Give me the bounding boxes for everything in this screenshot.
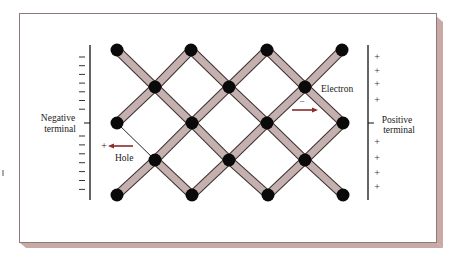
atom <box>261 44 274 57</box>
atom <box>299 154 312 167</box>
positive-terminal-label-line2: terminal <box>383 125 415 135</box>
atom <box>223 154 236 167</box>
atom <box>261 117 274 130</box>
atom <box>149 81 162 94</box>
positive-terminal-label-line1: Positive <box>382 115 413 125</box>
plus-sign: + <box>374 94 380 105</box>
negative-terminal-label-line1: Negative <box>41 113 75 123</box>
plus-sign: + <box>374 167 380 178</box>
hole-label: Hole <box>115 153 133 163</box>
atom <box>336 44 349 57</box>
semiconductor-lattice-diagram: Negative terminal ++++++++ Positive term… <box>0 0 457 259</box>
atom <box>185 44 198 57</box>
atom <box>337 189 350 202</box>
plus-sign: + <box>374 78 380 89</box>
plus-sign: + <box>374 51 380 62</box>
atom <box>111 44 124 57</box>
diagram-canvas: Negative terminal ++++++++ Positive term… <box>0 0 457 259</box>
atom <box>149 154 162 167</box>
atom <box>186 117 199 130</box>
plus-sign: + <box>374 181 380 192</box>
atom <box>223 81 236 94</box>
atom <box>111 117 124 130</box>
atom <box>299 81 312 94</box>
plus-sign: + <box>374 136 380 147</box>
plus-sign: + <box>374 152 380 163</box>
electron-label: Electron <box>321 84 353 94</box>
electron-sign: – <box>299 95 305 105</box>
atom <box>262 189 275 202</box>
hole-sign: + <box>101 140 107 151</box>
atom <box>186 189 199 202</box>
atom <box>111 189 124 202</box>
plus-sign: + <box>374 65 380 76</box>
negative-terminal-label-line2: terminal <box>44 124 76 134</box>
frame-border <box>20 14 437 243</box>
atom <box>337 117 350 130</box>
